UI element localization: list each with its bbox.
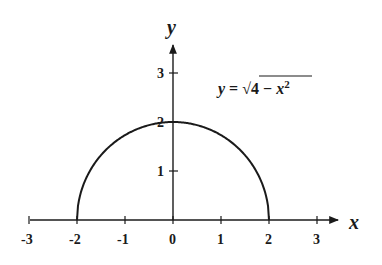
equation-radicand-const: 4 − — [251, 80, 276, 97]
x-tick-label: -3 — [21, 232, 33, 247]
x-tick-label: -1 — [117, 232, 129, 247]
equation-equals: = — [225, 80, 242, 97]
svg-text:y = √4 − x2: y = √4 − x2 — [216, 78, 290, 98]
equation-exponent: 2 — [284, 78, 290, 90]
radical-icon: √ — [242, 80, 251, 97]
y-axis-label: y — [165, 16, 176, 39]
x-tick-label: 1 — [217, 232, 224, 247]
equation-radicand-var: x — [275, 80, 284, 97]
x-tick-label: 0 — [169, 232, 176, 247]
semicircle-plot: -3-2-10123 123 x y y = √4 − x2 — [0, 0, 382, 265]
x-tick-label: 2 — [265, 232, 272, 247]
x-tick-label: -2 — [69, 232, 81, 247]
y-tick-label: 1 — [157, 164, 164, 179]
x-axis-label: x — [348, 211, 359, 233]
equation-annotation: y = √4 − x2 — [216, 76, 312, 98]
y-tick-label: 3 — [157, 66, 164, 81]
x-tick-label: 3 — [313, 232, 320, 247]
